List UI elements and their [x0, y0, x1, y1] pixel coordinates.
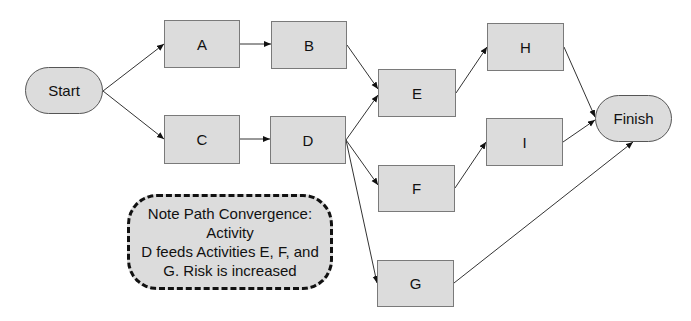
node-finish: Finish: [595, 95, 672, 142]
edge-i-finish: [563, 120, 595, 142]
node-g: G: [377, 260, 454, 307]
note-line-3: D feeds Activities E, F, and: [141, 242, 319, 261]
node-e: E: [378, 69, 456, 117]
node-a: A: [164, 20, 240, 68]
node-label: H: [520, 39, 531, 56]
edge-h-finish: [564, 47, 595, 117]
node-label: G: [410, 275, 422, 292]
node-label: E: [412, 85, 422, 102]
note-line-1: Note Path Convergence:: [141, 204, 319, 223]
node-c: C: [164, 115, 240, 164]
node-i: I: [486, 118, 563, 166]
node-label: I: [522, 134, 526, 151]
note-line-2: Activity: [141, 223, 319, 242]
edge-b-e: [347, 45, 378, 89]
node-label: F: [412, 180, 421, 197]
node-b: B: [271, 21, 347, 69]
node-label: D: [303, 132, 314, 149]
note-line-4: G. Risk is increased: [141, 261, 319, 280]
node-label: B: [304, 37, 314, 54]
node-d: D: [270, 116, 346, 164]
edge-d-e: [346, 95, 378, 140]
node-label: Start: [48, 82, 80, 99]
edge-e-h: [456, 47, 487, 93]
edge-f-i: [455, 142, 486, 188]
node-label: A: [197, 36, 207, 53]
edge-start-a: [103, 44, 164, 91]
node-label: Finish: [613, 110, 653, 127]
node-f: F: [378, 165, 455, 212]
node-label: C: [197, 131, 208, 148]
node-start: Start: [25, 67, 103, 114]
convergence-note: Note Path Convergence: Activity D feeds …: [127, 194, 333, 290]
edge-start-c: [103, 91, 164, 139]
node-h: H: [487, 23, 564, 71]
